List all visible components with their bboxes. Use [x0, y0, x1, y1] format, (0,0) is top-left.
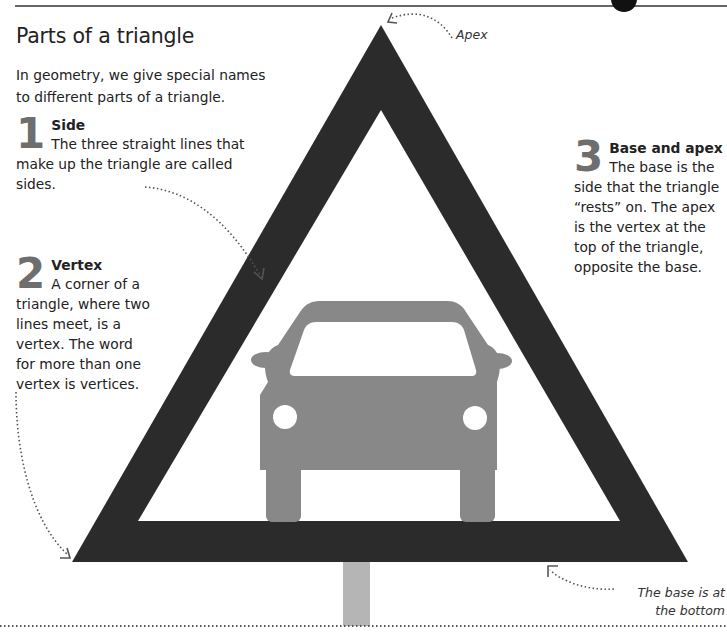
- intro-text: In geometry, we give special names to di…: [16, 64, 276, 108]
- section-body: A corner of a triangle, where two lines …: [16, 276, 150, 392]
- section-body: The three straight lines that make up th…: [16, 136, 245, 192]
- section-base-apex: 3 Base and apex The base is the side tha…: [574, 139, 724, 277]
- car-headlight-right: [463, 406, 487, 430]
- section-body: The base is the side that the triangle “…: [574, 159, 719, 275]
- base-label: The base is at the bottom: [615, 584, 725, 620]
- section-side: 1 Side The three straight lines that mak…: [16, 116, 256, 194]
- sign-pole: [343, 560, 370, 626]
- section-vertex: 2 Vertex A corner of a triangle, where t…: [16, 256, 156, 394]
- section-number: 3: [574, 141, 603, 173]
- base-arrow: [550, 570, 614, 589]
- vertex-arrow: [16, 392, 68, 555]
- apex-label: Apex: [456, 26, 488, 44]
- page-title: Parts of a triangle: [16, 24, 194, 48]
- section-number: 1: [16, 118, 45, 150]
- vertex-arrowhead-icon: [60, 548, 70, 558]
- section-heading: Side: [16, 116, 256, 134]
- side-arrow: [145, 187, 260, 275]
- base-arrowhead-icon: [548, 566, 558, 577]
- section-number: 2: [16, 258, 45, 290]
- apex-arrow: [392, 14, 452, 38]
- car-headlight-left: [273, 405, 297, 429]
- car-windshield: [290, 322, 477, 376]
